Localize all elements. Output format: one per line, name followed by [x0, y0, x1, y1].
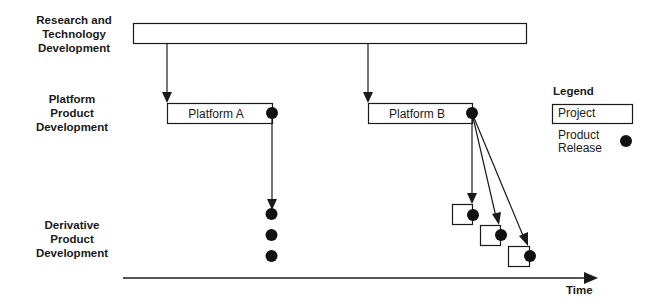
platform-b-label: Platform B: [369, 104, 465, 124]
platform-a-label: Platform A: [168, 104, 264, 124]
legend-release-label: Product Release: [558, 129, 602, 155]
platform-b-release-dot: [466, 107, 478, 119]
arrow-to-platform-b: [363, 44, 373, 104]
platform-a-release-dot: [266, 107, 278, 119]
derivative-a3-release-dot: [266, 250, 278, 262]
arrow-platform-b-to-derivative-2: [472, 113, 501, 225]
time-axis: [123, 272, 598, 284]
diagram-canvas: [0, 0, 653, 306]
derivative-b1-release-dot: [467, 209, 479, 221]
arrow-platform-a-to-derivatives: [267, 113, 277, 210]
derivative-b2-release-dot: [495, 229, 507, 241]
legend-release-swatch: [620, 135, 632, 147]
research-project-bar: [134, 24, 527, 44]
legend-release-line: Release: [558, 142, 602, 155]
arrow-to-platform-a: [162, 44, 172, 104]
derivative-a1-release-dot: [266, 208, 278, 220]
legend-title: Legend: [553, 85, 594, 97]
derivative-a2-release-dot: [266, 229, 278, 241]
legend-project-label: Project: [558, 107, 595, 120]
derivative-b3-release-dot: [524, 250, 536, 262]
time-axis-label: Time: [566, 284, 593, 296]
